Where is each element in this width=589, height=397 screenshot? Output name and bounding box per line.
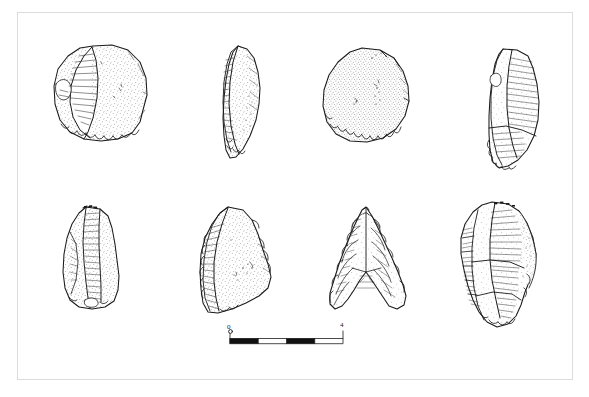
artifact-4-end-scraper[interactable] <box>487 47 541 171</box>
artifact-5-description: Sub-rectangular piece with multiple para… <box>0 0 1 1</box>
artifact-2-side-scraper-profile[interactable] <box>218 44 264 160</box>
artifact-1-description: Broad sub-circular flake with stippled d… <box>0 0 1 1</box>
artifact-4-description: Elongated flake with long parallel flake… <box>0 0 1 1</box>
artifact-7-description: Bifacially flaked hollow-based triangula… <box>0 0 1 1</box>
artifact-2-description: Narrow elongated profile of the scraper … <box>0 0 1 1</box>
scale-bar[interactable] <box>228 330 346 346</box>
artifact-3-description: Rounded discoidal piece with dense overa… <box>0 0 1 1</box>
illustration-plate: 0 4 Lithic artefact plate Broad sub-circ… <box>0 0 589 397</box>
artifact-8-multiplatform-core[interactable] <box>458 199 540 329</box>
plate-title: Lithic artefact plate <box>0 0 1 1</box>
artifact-8-description: Blocky core with numerous flake scars on… <box>0 0 1 1</box>
scale-bar-end-label: 4 <box>340 322 344 329</box>
artifact-5-core-fragment[interactable] <box>61 204 121 312</box>
artifact-3-discoidal-scraper[interactable] <box>321 46 411 144</box>
artifact-1-side-scraper-dorsal[interactable] <box>52 44 150 144</box>
artifact-7-projectile-point[interactable] <box>328 204 408 314</box>
artifact-6-convergent-scraper[interactable] <box>198 204 274 316</box>
artifact-6-description: Triangular flake with stippled right fac… <box>0 0 1 1</box>
